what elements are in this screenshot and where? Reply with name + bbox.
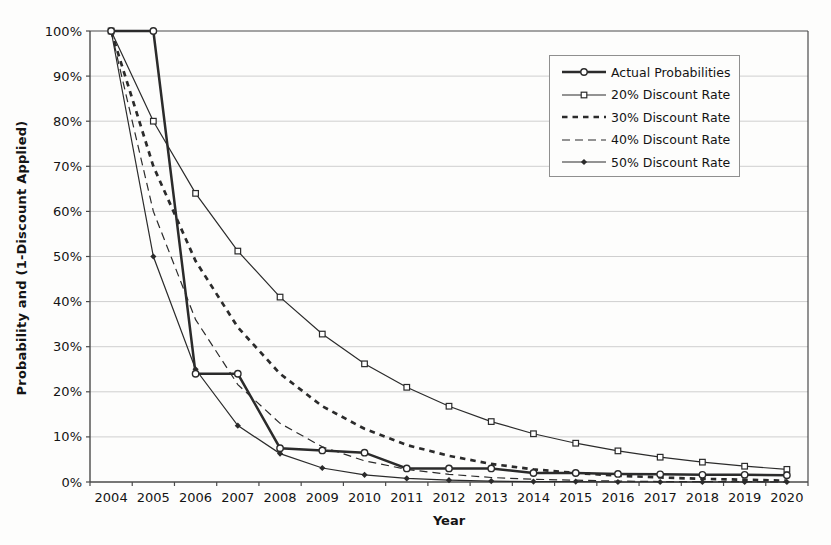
legend-line-sample bbox=[560, 133, 608, 147]
y-tick-label: 40% bbox=[36, 294, 82, 309]
legend-label: 30% Discount Rate bbox=[611, 110, 730, 125]
legend-item: 40% Discount Rate bbox=[550, 129, 739, 152]
legend-line-sample bbox=[560, 155, 608, 169]
x-tick-label: 2014 bbox=[511, 490, 555, 505]
y-tick-label: 50% bbox=[36, 249, 82, 264]
legend-label: 50% Discount Rate bbox=[611, 155, 730, 170]
legend-line-sample bbox=[560, 110, 608, 124]
x-tick-label: 2007 bbox=[216, 490, 260, 505]
y-tick-label: 0% bbox=[36, 475, 82, 490]
y-tick-label: 100% bbox=[36, 24, 82, 39]
x-tick-label: 2012 bbox=[427, 490, 471, 505]
x-axis-title: Year bbox=[90, 513, 808, 528]
x-tick-label: 2016 bbox=[596, 490, 640, 505]
x-tick-label: 2013 bbox=[469, 490, 513, 505]
legend-item: 30% Discount Rate bbox=[550, 106, 739, 129]
y-tick-label: 10% bbox=[36, 429, 82, 444]
chart-figure: Probability and (1-Discount Applied) 0%1… bbox=[0, 0, 831, 545]
y-tick-label: 90% bbox=[36, 69, 82, 84]
x-tick-label: 2015 bbox=[554, 490, 598, 505]
x-tick-label: 2020 bbox=[765, 490, 809, 505]
x-tick-label: 2019 bbox=[723, 490, 767, 505]
y-tick-label: 80% bbox=[36, 114, 82, 129]
x-tick-label: 2004 bbox=[89, 490, 133, 505]
x-tick-label: 2006 bbox=[174, 490, 218, 505]
x-tick-label: 2011 bbox=[385, 490, 429, 505]
legend-item: Actual Probabilities bbox=[550, 61, 739, 84]
y-tick-label: 30% bbox=[36, 339, 82, 354]
y-tick-label: 20% bbox=[36, 384, 82, 399]
x-tick-label: 2017 bbox=[638, 490, 682, 505]
legend-label: 40% Discount Rate bbox=[611, 132, 730, 147]
y-tick-label: 60% bbox=[36, 204, 82, 219]
x-tick-label: 2005 bbox=[131, 490, 175, 505]
x-tick-label: 2008 bbox=[258, 490, 302, 505]
legend-line-sample bbox=[560, 88, 608, 102]
legend-label: Actual Probabilities bbox=[611, 65, 731, 80]
y-tick-label: 70% bbox=[36, 159, 82, 174]
x-tick-label: 2009 bbox=[300, 490, 344, 505]
legend-line-sample bbox=[560, 65, 608, 79]
legend-label: 20% Discount Rate bbox=[611, 87, 730, 102]
x-tick-label: 2010 bbox=[343, 490, 387, 505]
legend-item: 20% Discount Rate bbox=[550, 84, 739, 107]
x-tick-label: 2018 bbox=[680, 490, 724, 505]
legend: Actual Probabilities 20% Discount Rate 3… bbox=[549, 55, 740, 177]
legend-item: 50% Discount Rate bbox=[550, 151, 739, 174]
